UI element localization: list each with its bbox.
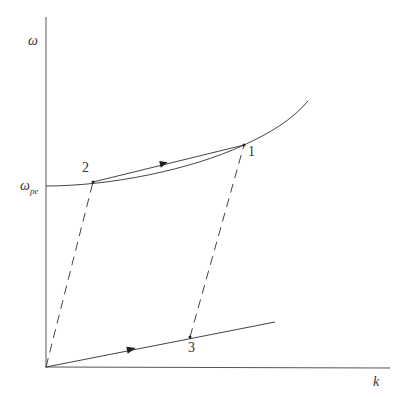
x-axis	[46, 367, 390, 368]
omega-pe-sub: pe	[30, 186, 39, 196]
point-3-marker	[189, 336, 192, 339]
omega-pe-main: ω	[20, 178, 30, 193]
point-1-label: 1	[248, 144, 255, 160]
diagram-canvas	[0, 0, 411, 408]
point-3-label: 3	[188, 340, 195, 356]
x-axis-label: k	[373, 374, 379, 390]
dashed-3-to-1	[190, 145, 244, 337]
lower-line	[46, 322, 275, 367]
dashed-0-to-2	[46, 182, 93, 367]
point-2-label: 2	[82, 160, 89, 176]
y-axis-label: ω	[28, 33, 38, 49]
omega-pe-label: ωpe	[20, 178, 38, 196]
chord-2-to-1	[93, 145, 244, 182]
point-1-marker	[243, 144, 246, 147]
point-2-marker	[92, 181, 95, 184]
